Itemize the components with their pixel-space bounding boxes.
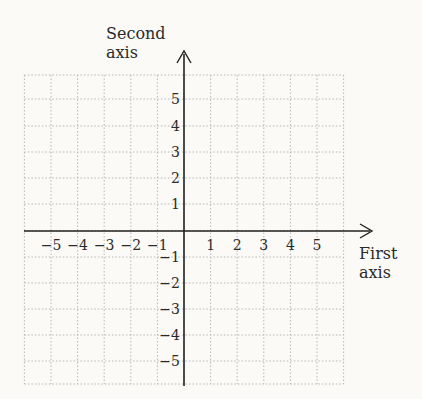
x-tick-label: 4 [286, 237, 295, 253]
x-axis-title-line2: axis [359, 263, 391, 282]
coordinate-plane: −5−4−3−2−112345 54321−1−2−3−4−5 Second a… [0, 0, 422, 399]
y-tick-label: 1 [171, 196, 180, 212]
x-tick-label: 5 [313, 237, 322, 253]
x-tick-label: 3 [259, 237, 268, 253]
y-tick-label: −1 [159, 249, 180, 265]
y-tick-label: 4 [171, 118, 180, 134]
x-tick-label: −5 [41, 237, 62, 253]
y-tick-label: −4 [159, 327, 180, 343]
y-axis-tick-labels: 54321−1−2−3−4−5 [159, 91, 180, 369]
y-tick-label: 5 [171, 91, 180, 107]
y-tick-label: −2 [159, 275, 180, 291]
x-tick-label: 2 [233, 237, 242, 253]
x-tick-label: −2 [120, 237, 141, 253]
y-tick-label: −3 [159, 301, 180, 317]
x-tick-label: 1 [206, 237, 215, 253]
x-tick-label: −4 [67, 237, 88, 253]
y-tick-label: −5 [159, 353, 180, 369]
x-tick-label: −3 [94, 237, 115, 253]
y-tick-label: 2 [171, 170, 180, 186]
y-axis-title-line1: Second [106, 24, 166, 43]
y-axis-title-line2: axis [106, 43, 138, 62]
y-tick-label: 3 [171, 144, 180, 160]
x-axis-title-line1: First [359, 244, 398, 263]
x-axis-tick-labels: −5−4−3−2−112345 [41, 237, 322, 253]
